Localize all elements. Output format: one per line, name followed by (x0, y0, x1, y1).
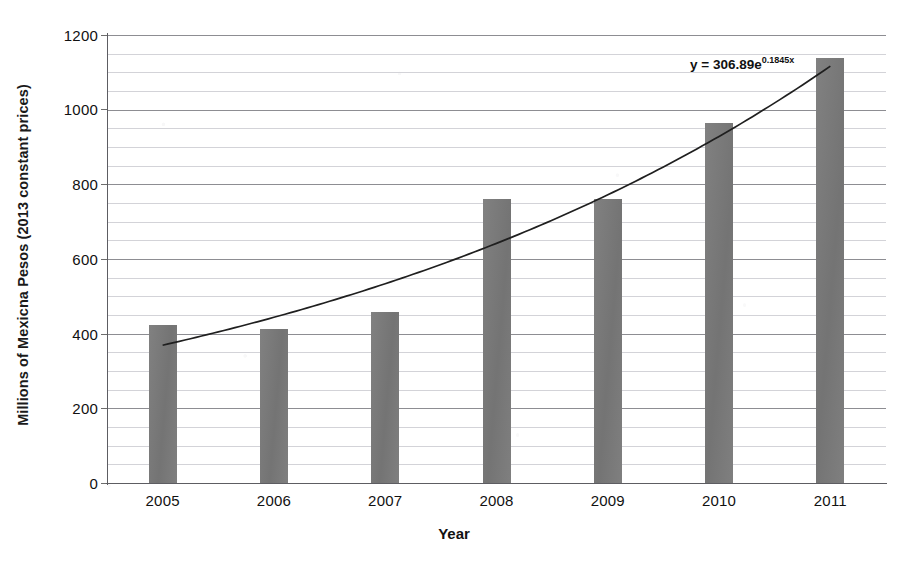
x-tick-label-2006: 2006 (257, 492, 291, 509)
gridline-minor (107, 72, 886, 73)
gridline-minor (107, 147, 886, 148)
x-axis-line (106, 483, 887, 484)
y-tick-label: 600 (46, 251, 98, 268)
bar-2009 (594, 199, 622, 483)
gridline-minor (107, 128, 886, 129)
y-tick-label: 1200 (46, 27, 98, 44)
gridline-minor (107, 91, 886, 92)
y-axis-line (107, 33, 108, 485)
bar-2006 (260, 329, 288, 483)
x-axis-title: Year (0, 525, 908, 542)
trendline-equation-exponent: 0.1845x (762, 55, 795, 65)
bar-2005 (149, 325, 177, 483)
y-tick-label: 200 (46, 400, 98, 417)
gridline-minor (107, 166, 886, 167)
y-tick-label: 1000 (46, 101, 98, 118)
bar-2008 (483, 199, 511, 483)
plot-area (107, 35, 886, 483)
gridline-major (107, 35, 886, 36)
y-tick-label: 0 (46, 475, 98, 492)
bar-2011 (816, 58, 844, 483)
x-tick-label-2010: 2010 (702, 492, 736, 509)
y-axis-tick-labels: 1200 1000 800 600 400 200 0 (40, 0, 98, 520)
x-tick-label-2011: 2011 (814, 492, 847, 509)
y-axis-title-container: Millions of Mexicna Pesos (2013 constant… (6, 0, 40, 510)
x-tick-label-2005: 2005 (146, 492, 180, 509)
bar-2010 (705, 123, 733, 483)
x-tick-label-2008: 2008 (479, 492, 513, 509)
x-tick-label-2007: 2007 (368, 492, 402, 509)
x-tick-label-2009: 2009 (591, 492, 625, 509)
bar-2007 (371, 312, 399, 483)
exponential-growth-bar-chart: Millions of Mexicna Pesos (2013 constant… (0, 0, 908, 565)
y-tick-label: 800 (46, 176, 98, 193)
gridline-major (107, 184, 886, 185)
trendline-equation-label: y = 306.89e0.1845x (690, 55, 794, 72)
gridline-major (107, 110, 886, 111)
y-tick-label: 400 (46, 326, 98, 343)
trendline-equation-base: y = 306.89e (690, 57, 762, 72)
y-axis-title: Millions of Mexicna Pesos (2013 constant… (15, 84, 31, 426)
